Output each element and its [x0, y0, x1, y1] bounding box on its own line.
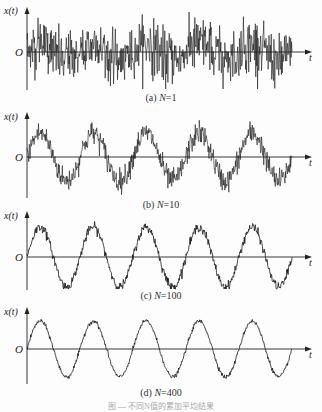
y-axis-arrow-icon: [25, 7, 30, 14]
y-axis-label: x(t): [3, 306, 19, 318]
caption-d: (d) N=400: [0, 387, 322, 398]
y-axis-arrow-icon: [25, 211, 30, 218]
origin-label: O: [15, 151, 23, 163]
y-axis-label: x(t): [3, 5, 19, 17]
figure-caption: 图 — 不同N值的累加平均结果: [0, 400, 322, 411]
y-axis-arrow-icon: [25, 307, 30, 314]
x-axis-label: t: [309, 157, 312, 168]
signal-line-b: [27, 120, 292, 195]
y-axis-label: x(t): [3, 210, 19, 222]
y-axis-arrow-icon: [25, 112, 30, 119]
x-axis-label: t: [309, 349, 312, 360]
y-axis-label: x(t): [3, 111, 19, 123]
caption-a: (a) N=1: [0, 92, 322, 103]
signal-line-c: [27, 221, 292, 289]
origin-label: O: [15, 343, 23, 355]
caption-c: (c) N=100: [0, 290, 322, 301]
origin-label: O: [15, 46, 23, 58]
x-axis-label: t: [309, 257, 312, 268]
origin-label: O: [15, 251, 23, 263]
signal-line-a: [27, 12, 292, 89]
x-axis-label: t: [309, 52, 312, 63]
caption-b: (b) N=10: [0, 199, 322, 210]
